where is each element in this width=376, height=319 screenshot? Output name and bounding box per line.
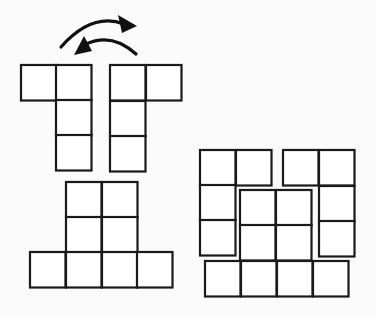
unit-square — [102, 217, 138, 253]
figure-b-bottom-row — [205, 261, 349, 297]
arrowhead-right-icon — [118, 15, 137, 33]
unit-square — [66, 182, 102, 218]
unit-square — [319, 150, 355, 186]
pieces-group — [21, 65, 355, 297]
unit-square — [200, 150, 236, 186]
unit-square — [102, 252, 138, 288]
unit-square — [200, 220, 236, 256]
unit-square — [283, 150, 319, 186]
unit-square — [66, 252, 102, 288]
unit-square — [56, 135, 92, 171]
right-piece — [110, 65, 182, 172]
unit-square — [240, 190, 276, 226]
unit-square — [102, 182, 138, 218]
arrowhead-left-icon — [74, 36, 92, 55]
unit-square — [21, 65, 57, 101]
diagram-canvas — [0, 0, 376, 319]
unit-square — [110, 101, 146, 137]
unit-square — [110, 136, 146, 172]
unit-square — [146, 65, 182, 101]
unit-square — [319, 221, 355, 257]
left-piece — [21, 65, 92, 171]
figure-b-center-square — [240, 190, 312, 261]
unit-square — [276, 225, 312, 261]
unit-square — [205, 261, 241, 297]
unit-square — [200, 185, 236, 221]
unit-square — [277, 261, 313, 297]
figure-a-bottom-row — [30, 252, 173, 288]
swap-arrows — [61, 15, 137, 55]
unit-square — [110, 65, 146, 101]
unit-square — [56, 100, 92, 136]
arrow-left-icon — [86, 40, 136, 54]
unit-square — [313, 261, 349, 297]
unit-square — [240, 225, 276, 261]
unit-square — [241, 261, 277, 297]
unit-square — [66, 217, 102, 253]
unit-square — [56, 65, 92, 101]
unit-square — [276, 190, 312, 226]
unit-square — [137, 252, 173, 288]
unit-square — [319, 186, 355, 222]
figure-a-top-square — [66, 182, 138, 253]
unit-square — [30, 252, 66, 288]
unit-square — [236, 150, 272, 186]
